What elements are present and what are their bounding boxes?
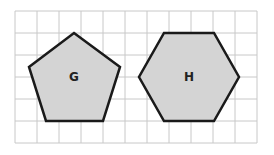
shape-diagram: G H <box>0 0 274 155</box>
label-g: G <box>69 70 79 84</box>
label-h: H <box>184 70 194 84</box>
